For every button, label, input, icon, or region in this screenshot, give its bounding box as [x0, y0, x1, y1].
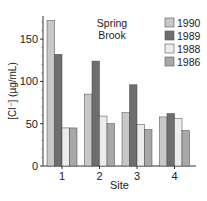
- legend-label-1990: 1990: [177, 17, 201, 29]
- legend-label-1986: 1986: [177, 56, 201, 68]
- y-tick-label: 50: [26, 118, 38, 130]
- bar-chart: 0501001501234Site[Cl⁻] (µg/mL)SpringBroo…: [0, 0, 207, 201]
- x-tick-label: 3: [134, 170, 140, 182]
- bar-1988-site-3: [137, 125, 145, 166]
- bar-1986-site-1: [70, 128, 78, 166]
- x-tick-label: 1: [59, 170, 65, 182]
- chart-svg: 0501001501234Site[Cl⁻] (µg/mL)SpringBroo…: [0, 0, 207, 201]
- y-tick-label: 0: [32, 160, 38, 172]
- chart-title-line: Spring: [97, 17, 128, 29]
- legend-swatch-1986: [165, 57, 174, 66]
- bar-1988-site-4: [175, 119, 183, 166]
- bar-1990-site-3: [122, 113, 130, 166]
- y-tick-label: 150: [20, 33, 38, 45]
- x-axis-label: Site: [110, 179, 129, 191]
- x-tick-label: 2: [96, 170, 102, 182]
- legend-swatch-1989: [165, 31, 174, 40]
- bar-1989-site-2: [92, 61, 100, 166]
- legend-label-1988: 1988: [177, 43, 201, 55]
- bar-1988-site-2: [100, 116, 108, 166]
- bar-1989-site-3: [130, 85, 138, 166]
- chart-title-line: Brook: [98, 29, 126, 41]
- y-axis-label: [Cl⁻] (µg/mL): [7, 62, 18, 119]
- bar-1986-site-4: [182, 130, 190, 166]
- bar-1989-site-4: [167, 114, 175, 166]
- bar-1990-site-1: [47, 20, 55, 166]
- bar-1986-site-2: [107, 124, 115, 166]
- legend-swatch-1988: [165, 44, 174, 53]
- bar-1990-site-4: [160, 117, 168, 166]
- legend-swatch-1990: [165, 18, 174, 27]
- bar-1986-site-3: [145, 130, 153, 166]
- x-tick-label: 4: [171, 170, 177, 182]
- y-tick-label: 100: [20, 75, 38, 87]
- bar-1988-site-1: [62, 128, 70, 166]
- bar-1990-site-2: [85, 94, 93, 166]
- bar-1989-site-1: [55, 54, 63, 166]
- legend-label-1989: 1989: [177, 30, 201, 42]
